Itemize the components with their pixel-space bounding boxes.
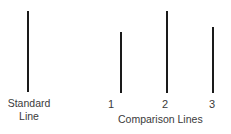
standard-caption-line2: Line [0, 110, 58, 123]
comparison-line-label-1: 1 [104, 99, 118, 110]
comparison-line-1 [120, 32, 122, 93]
comparison-line-3 [212, 27, 214, 93]
comparison-line-label-3: 3 [205, 99, 219, 110]
standard-line [27, 11, 29, 92]
standard-line-caption: Standard Line [0, 97, 58, 123]
standard-caption-line1: Standard [0, 97, 58, 110]
comparison-lines-caption: Comparison Lines [118, 113, 203, 126]
asch-line-judgment-figure: Standard Line 1 2 3 Comparison Lines [0, 0, 231, 134]
comparison-line-label-2: 2 [158, 99, 172, 110]
comparison-line-2 [166, 11, 168, 93]
